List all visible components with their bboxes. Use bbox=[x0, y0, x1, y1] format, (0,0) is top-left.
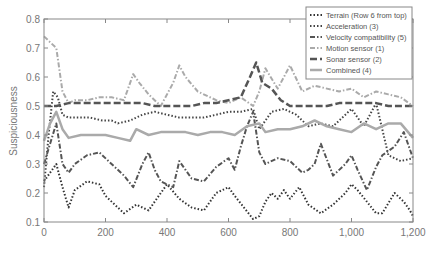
chart-svg: 02004006008001,0001,2000.10.20.30.40.50.… bbox=[0, 0, 442, 255]
x-tick-label: 1,200 bbox=[400, 227, 425, 238]
x-tick-label: 0 bbox=[41, 227, 47, 238]
y-tick-label: 0.2 bbox=[26, 188, 40, 199]
legend-entry: Velocity compatibility (5) bbox=[326, 33, 407, 42]
legend-entry: Acceleration (3) bbox=[326, 22, 379, 31]
legend-entry: Combined (4) bbox=[326, 66, 372, 75]
x-tick-label: 1,000 bbox=[339, 227, 364, 238]
line-chart: 02004006008001,0001,2000.10.20.30.40.50.… bbox=[0, 0, 442, 255]
y-tick-label: 0.4 bbox=[26, 130, 40, 141]
y-tick-label: 0.5 bbox=[26, 101, 40, 112]
x-tick-label: 800 bbox=[282, 227, 299, 238]
y-tick-label: 0.3 bbox=[26, 159, 40, 170]
legend: Terrain (Row 6 from top)Acceleration (3)… bbox=[306, 7, 412, 79]
series-line-1 bbox=[44, 92, 413, 188]
x-tick-label: 400 bbox=[159, 227, 176, 238]
series-line-0 bbox=[44, 164, 413, 219]
legend-entry: Motion sensor (1) bbox=[326, 44, 385, 53]
y-tick-label: 0.1 bbox=[26, 217, 40, 228]
series-line-2 bbox=[44, 112, 413, 190]
x-tick-label: 600 bbox=[220, 227, 237, 238]
legend-entry: Terrain (Row 6 from top) bbox=[326, 11, 407, 20]
x-tick-label: 200 bbox=[97, 227, 114, 238]
legend-entry: Sonar sensor (2) bbox=[326, 55, 382, 64]
y-tick-label: 0.8 bbox=[26, 14, 40, 25]
y-axis-label: Suspiciousness bbox=[8, 86, 19, 155]
y-tick-label: 0.7 bbox=[26, 43, 40, 54]
y-tick-label: 0.6 bbox=[26, 72, 40, 83]
